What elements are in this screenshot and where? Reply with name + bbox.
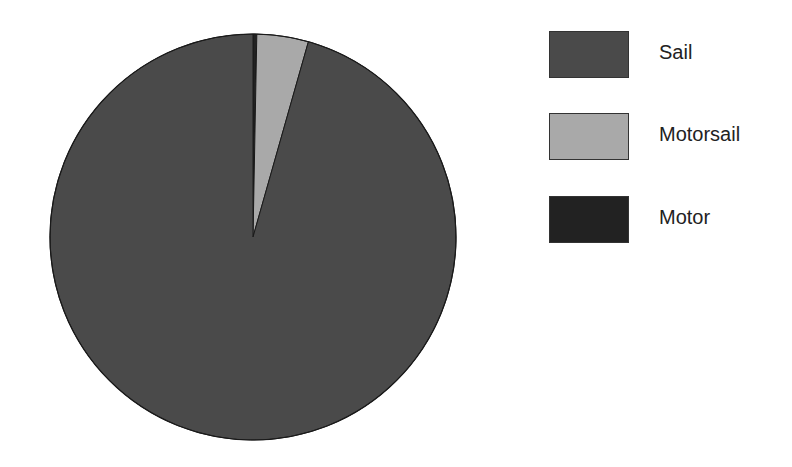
legend-swatch-sail — [549, 31, 629, 78]
legend-item-motorsail: Motorsail — [549, 113, 789, 163]
legend-item-motor: Motor — [549, 196, 789, 246]
legend-swatch-motor — [549, 196, 629, 243]
legend-swatch-motorsail — [549, 113, 629, 160]
legend-item-sail: Sail — [549, 31, 789, 81]
legend-label-sail: Sail — [659, 41, 692, 64]
pie-slice-sail — [50, 34, 456, 440]
legend-label-motor: Motor — [659, 206, 710, 229]
legend-label-motorsail: Motorsail — [659, 123, 740, 146]
